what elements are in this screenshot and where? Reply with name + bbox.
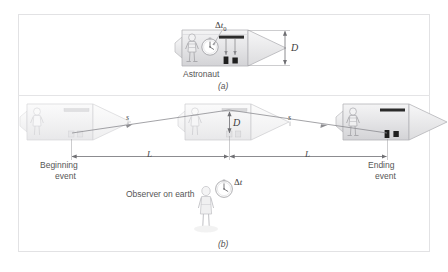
ending-event-label-line2: event (375, 171, 396, 181)
panel-a-spacecraft (175, 30, 290, 66)
slant-label-s-left: s (126, 113, 129, 122)
ending-event-label-line1: Ending (368, 160, 394, 170)
subscript-zero-a: 0 (223, 25, 226, 32)
beginning-event-label-line1: Beginning (40, 160, 78, 170)
observer-on-earth-label: Observer on earth (126, 189, 195, 199)
clock-label-delta-t-zero: Δt0 (215, 20, 227, 32)
figure-artwork (0, 0, 448, 272)
earth-observer-clock (216, 179, 233, 197)
dimension-L-lines (72, 136, 388, 160)
t-symbol-b: t (240, 177, 243, 187)
light-detector-panel-a (232, 58, 237, 64)
dimension-label-L-right: L (305, 149, 310, 159)
spacecraft-beginning-position (20, 104, 131, 140)
beginning-event-label-line2: event (55, 171, 76, 181)
panel-label-b: (b) (218, 239, 228, 249)
slant-label-s-right: s (288, 113, 291, 122)
mirror-bar-panel-a (219, 36, 244, 39)
clock-label-delta-t: Δt (234, 177, 242, 187)
dimension-label-D-panel-b: D (233, 117, 240, 128)
spacecraft-ending-position (336, 104, 447, 140)
dimension-label-L-left: L (147, 149, 152, 159)
light-source-panel-a (224, 57, 229, 65)
panel-label-a: (a) (218, 81, 228, 91)
physics-figure-time-dilation: Δt0 D Astronaut (a) s s D L L Beginning … (0, 0, 448, 272)
earth-observer-figure (194, 186, 218, 232)
dimension-label-D-panel-a: D (291, 42, 298, 53)
astronaut-caption: Astronaut (183, 69, 219, 79)
